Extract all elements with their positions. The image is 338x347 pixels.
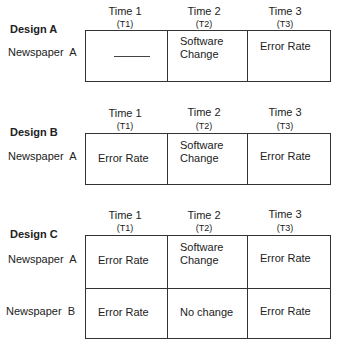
time-code-t2: (T2) (169, 19, 239, 29)
design-b-title: Design B (10, 126, 58, 138)
design-a-title: Design A (10, 23, 57, 35)
design-a-row-newspaper-a: Newspaper A (8, 46, 76, 58)
design-c-row-newspaper-b: Newspaper B (6, 305, 75, 317)
design-b-cell-t2: Software Change (168, 134, 248, 184)
time-code-t3: (T3) (250, 223, 320, 233)
design-c-cell-b-t3: Error Rate (248, 288, 330, 338)
design-b-row-newspaper-a: Newspaper A (8, 150, 76, 162)
time-header-t1: Time 1 (90, 209, 160, 221)
time-header-t1: Time 1 (90, 5, 160, 17)
time-header-t3: Time 3 (250, 106, 320, 118)
design-c-cell-a-t3: Error Rate (248, 236, 330, 288)
empty-dash (114, 56, 150, 57)
design-c-table: Error Rate Software Change Error Rate Er… (85, 235, 331, 339)
design-c-cell-a-t2: Software Change (168, 236, 248, 288)
time-code-t1: (T1) (90, 19, 160, 29)
time-header-t2: Time 2 (169, 106, 239, 118)
time-code-t1: (T1) (90, 223, 160, 233)
time-code-t2: (T2) (169, 223, 239, 233)
design-a-cell-t1 (86, 31, 168, 81)
time-code-t1: (T1) (90, 121, 160, 131)
time-header-t2: Time 2 (169, 5, 239, 17)
design-c-cell-a-t1: Error Rate (86, 236, 168, 288)
design-c-title: Design C (10, 228, 58, 240)
design-b-cell-t3: Error Rate (248, 134, 330, 184)
design-a-cell-t2: Software Change (168, 31, 248, 81)
time-code-t3: (T3) (250, 19, 320, 29)
time-header-t3: Time 3 (250, 208, 320, 220)
design-a-table: Software Change Error Rate (85, 30, 331, 82)
time-header-t1: Time 1 (90, 107, 160, 119)
design-c-cell-b-t2: No change (168, 288, 248, 338)
time-header-t3: Time 3 (250, 5, 320, 17)
time-code-t3: (T3) (250, 121, 320, 131)
design-c-cell-b-t1: Error Rate (86, 288, 168, 338)
design-c-row-newspaper-a: Newspaper A (8, 253, 76, 265)
design-a-cell-t3: Error Rate (248, 31, 330, 81)
design-b-table: Error Rate Software Change Error Rate (85, 133, 331, 185)
time-header-t2: Time 2 (169, 209, 239, 221)
design-b-cell-t1: Error Rate (86, 134, 168, 184)
time-code-t2: (T2) (169, 121, 239, 131)
